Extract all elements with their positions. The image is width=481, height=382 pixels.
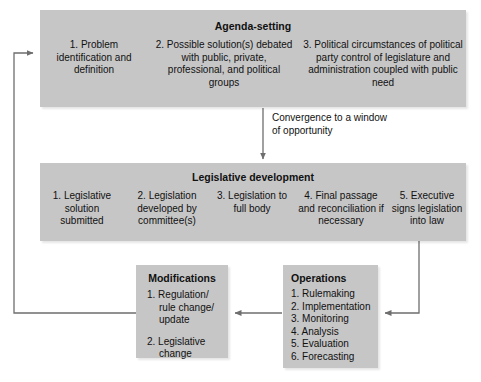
diagram-canvas: Agenda-setting 1. Problem identification… <box>0 0 481 382</box>
modifications-item-2: 2. Legislative change <box>147 336 223 361</box>
operations-title: Operations <box>291 272 378 285</box>
legislative-column-1-label: 1. Legislative solution submitted <box>43 190 121 228</box>
agenda-column-3-label: 3. Political circumstances of political … <box>302 39 464 89</box>
legislative-column-4-label: 4. Final passage and reconciliation if n… <box>296 190 386 228</box>
legislative-column-5: 5. Executive signs legislation into law <box>388 190 466 228</box>
operations-item-4: 4. Analysis <box>291 326 375 339</box>
legislative-column-1: 1. Legislative solution submitted <box>40 190 124 228</box>
legislative-development-box: Legislative development 1. Legislative s… <box>40 163 466 241</box>
agenda-setting-columns: 1. Problem identification and definition… <box>40 39 466 89</box>
legislative-column-4: 4. Final passage and reconciliation if n… <box>294 190 388 228</box>
legislative-column-3: 3. Legislation to full body <box>210 190 294 228</box>
operations-box: Operations 1. Rulemaking 2. Implementati… <box>283 265 378 368</box>
agenda-column-1-label: 1. Problem identification and definition <box>46 39 142 77</box>
operations-item-3: 3. Monitoring <box>291 313 375 326</box>
agenda-column-1: 1. Problem identification and definition <box>40 39 148 89</box>
agenda-column-2: 2. Possible solution(s) debated with pub… <box>148 39 300 89</box>
legislative-column-2: 2. Legislation developed by committee(s) <box>124 190 210 228</box>
agenda-column-2-label: 2. Possible solution(s) debated with pub… <box>152 39 296 89</box>
modifications-title: Modifications <box>136 272 228 285</box>
operations-list: 1. Rulemaking 2. Implementation 3. Monit… <box>291 288 375 364</box>
operations-item-2: 2. Implementation <box>291 301 375 314</box>
agenda-setting-title: Agenda-setting <box>40 20 466 33</box>
agenda-setting-box: Agenda-setting 1. Problem identification… <box>40 10 466 107</box>
operations-item-6: 6. Forecasting <box>291 351 375 364</box>
modifications-list: 1. Regulation/ rule change/ update 2. Le… <box>147 289 223 361</box>
legislative-column-2-label: 2. Legislation developed by committee(s) <box>126 190 208 228</box>
legislative-development-columns: 1. Legislative solution submitted 2. Leg… <box>40 190 466 228</box>
operations-item-5: 5. Evaluation <box>291 338 375 351</box>
convergence-note: Convergence to a window of opportunity <box>272 112 392 137</box>
modifications-item-1: 1. Regulation/ rule change/ update <box>147 289 223 327</box>
agenda-column-3: 3. Political circumstances of political … <box>300 39 466 89</box>
legislative-to-operations-arrow <box>385 241 419 313</box>
legislative-development-title: Legislative development <box>40 171 466 184</box>
legislative-column-3-label: 3. Legislation to full body <box>212 190 292 215</box>
modifications-box: Modifications 1. Regulation/ rule change… <box>136 265 228 358</box>
operations-item-1: 1. Rulemaking <box>291 288 375 301</box>
legislative-column-5-label: 5. Executive signs legislation into law <box>390 190 464 228</box>
